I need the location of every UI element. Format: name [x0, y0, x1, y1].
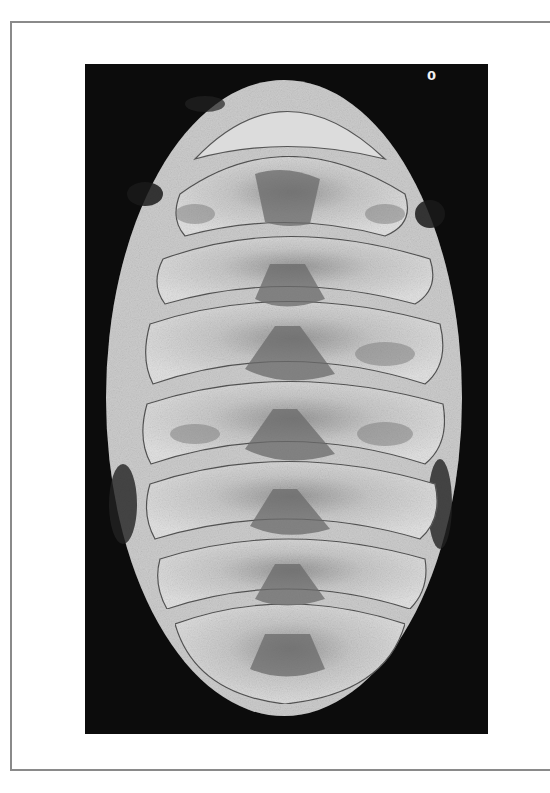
chiton-specimen	[85, 64, 488, 734]
plate-label: 0	[427, 68, 436, 83]
specimen-photograph: 0	[85, 64, 488, 734]
